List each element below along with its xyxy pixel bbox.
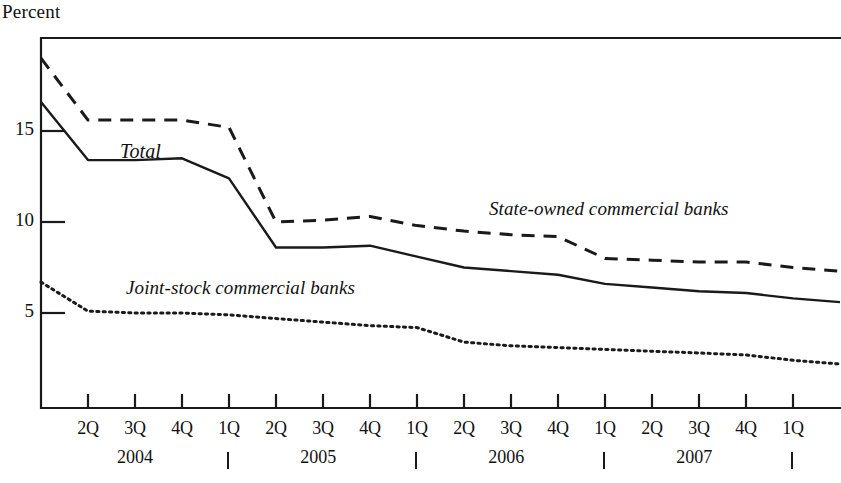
series-label-state-owned: State-owned commercial banks (489, 198, 729, 220)
y-tick-label-5: 5 (0, 300, 34, 322)
x-tick-label-4Q-11: 4Q (534, 418, 582, 439)
x-tick-label-3Q-10: 3Q (487, 418, 535, 439)
series-label-total: Total (120, 140, 161, 163)
y-tick-marks (41, 131, 65, 313)
x-tick-label-3Q-14: 3Q (675, 418, 723, 439)
x-year-label-2004: 2004 (100, 447, 170, 468)
x-tick-label-2Q-13: 2Q (628, 418, 676, 439)
chart-plot-area (0, 0, 841, 483)
x-tick-label-3Q-6: 3Q (299, 418, 347, 439)
x-tick-label-2Q-1: 2Q (64, 418, 112, 439)
series-label-joint-stock: Joint-stock commercial banks (126, 277, 355, 299)
y-tick-label-15: 15 (0, 118, 34, 140)
year-separator-mark (415, 452, 417, 469)
x-tick-label-3Q-2: 3Q (111, 418, 159, 439)
x-year-label-2005: 2005 (283, 447, 353, 468)
y-tick-label-10: 10 (0, 209, 34, 231)
year-separator-mark (227, 452, 229, 469)
x-tick-label-4Q-15: 4Q (722, 418, 770, 439)
x-tick-label-1Q-8: 1Q (393, 418, 441, 439)
x-tick-label-2Q-5: 2Q (252, 418, 300, 439)
year-separator-mark (791, 452, 793, 469)
x-tick-label-2Q-9: 2Q (440, 418, 488, 439)
x-tick-label-1Q-16: 1Q (769, 418, 817, 439)
x-tick-label-4Q-7: 4Q (346, 418, 394, 439)
year-separator-mark (603, 452, 605, 469)
x-year-label-2007: 2007 (659, 447, 729, 468)
x-tick-label-1Q-12: 1Q (581, 418, 629, 439)
x-tick-marks (88, 394, 793, 408)
chart-figure: Percent 15105 2Q3Q4Q1Q2Q3Q4Q1Q2Q3Q4Q1Q2Q… (0, 0, 841, 483)
x-tick-label-4Q-3: 4Q (158, 418, 206, 439)
series-line-dashed (41, 58, 840, 271)
x-year-label-2006: 2006 (471, 447, 541, 468)
x-tick-label-1Q-4: 1Q (205, 418, 253, 439)
